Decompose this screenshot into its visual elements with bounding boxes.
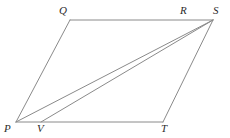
vertex-label-R: R xyxy=(180,5,187,16)
geometry-canvas xyxy=(0,0,230,138)
segment-diagonal-VS xyxy=(41,20,213,122)
segment-diagonal-PS xyxy=(16,20,213,122)
diagonals xyxy=(16,20,213,122)
vertex-label-S: S xyxy=(213,5,219,16)
vertex-label-Q: Q xyxy=(59,5,67,16)
vertex-label-P: P xyxy=(4,123,11,134)
geometry-figure: Q R S P V T xyxy=(0,0,230,138)
vertex-label-T: T xyxy=(161,123,167,134)
segment-edge-PQ xyxy=(16,20,70,122)
vertex-label-V: V xyxy=(37,123,44,134)
